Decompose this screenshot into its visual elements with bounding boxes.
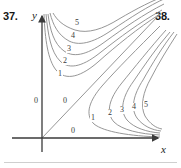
x-axis-label: x [161,143,166,155]
contour-curve-level-5-lower [143,34,177,129]
contour-label-upper-3: 3 [66,45,72,53]
horizontal-rule [4,162,177,163]
contour-label-lower-5: 5 [143,101,149,109]
contour-label-lower-4: 4 [131,103,137,111]
contour-label-lower-1: 1 [90,114,96,122]
contour-label-upper-4: 4 [70,32,76,40]
contour-label-zero-left: 0 [33,97,39,105]
figure-page: 37. 38. y x 5 4 3 2 1 1 2 [0,0,181,168]
contour-label-lower-3: 3 [119,106,125,114]
contour-label-zero-bottom: 0 [70,127,76,135]
contour-label-zero-diagonal: 0 [62,97,68,105]
contour-label-upper-2: 2 [62,57,68,65]
contour-label-lower-2: 2 [107,109,113,117]
contour-plot [0,0,181,168]
contour-label-upper-5: 5 [74,19,80,27]
contour-label-upper-1: 1 [57,70,63,78]
y-axis-label: y [32,9,37,21]
